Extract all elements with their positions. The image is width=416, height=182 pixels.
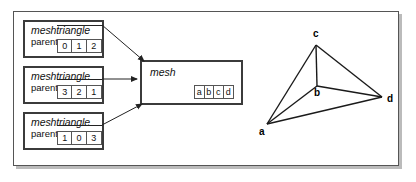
mesh-type-label: mesh — [150, 66, 176, 78]
meshtriangle-type-label-2: meshtriangle — [31, 70, 90, 82]
meshtriangle-cell[interactable]: 1 — [58, 132, 72, 144]
mesh-cell[interactable]: c — [214, 86, 224, 98]
meshtriangle-cell[interactable]: 0 — [72, 132, 86, 144]
meshtriangle-cell[interactable]: 2 — [72, 86, 86, 98]
mesh-cells[interactable]: a b c d — [194, 85, 234, 99]
meshtriangle-cells-1[interactable]: 0 1 2 — [57, 39, 102, 53]
mesh-cell[interactable]: a — [195, 86, 205, 98]
vertex-label-d: d — [387, 94, 393, 104]
mesh-cell[interactable]: b — [205, 86, 215, 98]
meshtriangle-cell[interactable]: 1 — [72, 40, 86, 52]
parent-stub-2 — [57, 79, 102, 80]
vertex-label-a: a — [259, 127, 265, 137]
figure-root: meshtriangle parent 0 1 2 meshtriangle p… — [0, 0, 416, 182]
meshtriangle-cells-2[interactable]: 3 2 1 — [57, 85, 102, 99]
meshtriangle-type-label-3: meshtriangle — [31, 116, 90, 128]
parent-stub-1 — [57, 25, 102, 26]
vertex-label-b: b — [314, 88, 320, 98]
meshtriangle-parent-label-3: parent — [31, 128, 58, 139]
meshtriangle-cell[interactable]: 1 — [87, 86, 101, 98]
meshtriangle-cell[interactable]: 2 — [87, 40, 101, 52]
parent-stub-3 — [57, 125, 102, 126]
meshtriangle-parent-label-2: parent — [31, 82, 58, 93]
mesh-cell[interactable]: d — [224, 86, 233, 98]
meshtriangle-cell[interactable]: 3 — [58, 86, 72, 98]
meshtriangle-parent-label-1: parent — [31, 36, 58, 47]
meshtriangle-cell[interactable]: 0 — [58, 40, 72, 52]
meshtriangle-cells-3[interactable]: 1 0 3 — [57, 131, 102, 145]
meshtriangle-cell[interactable]: 3 — [87, 132, 101, 144]
vertex-label-c: c — [313, 29, 319, 39]
